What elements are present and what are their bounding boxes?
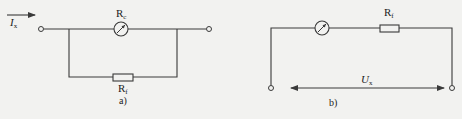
shunt-branch-right — [133, 29, 177, 77]
ammeter-icon — [114, 22, 128, 36]
voltmeter-icon — [315, 21, 329, 35]
left-wire — [271, 28, 315, 86]
panel-a-caption: a) — [119, 95, 127, 107]
shunt-resistor-label: Rf — [118, 82, 128, 96]
circuit-diagram-canvas: Ix Rc Rf a) Rf — [0, 0, 462, 119]
right-wire — [399, 28, 452, 86]
meter-resistance-label: Rc — [116, 7, 126, 21]
series-resistor-icon — [380, 25, 399, 32]
panel-b-caption: b) — [329, 97, 337, 109]
series-resistor-label: Rf — [384, 6, 394, 20]
voltage-label: Ux — [361, 73, 373, 87]
panel-a-ammeter-shunt: Ix Rc Rf a) — [7, 7, 212, 107]
output-terminal-icon — [207, 27, 212, 32]
left-terminal-icon — [269, 86, 274, 91]
current-label: Ix — [9, 16, 18, 30]
shunt-branch-left — [69, 29, 113, 77]
shunt-resistor-icon — [113, 74, 133, 81]
panel-b-voltmeter-multiplier: Rf Ux b) — [269, 6, 455, 109]
input-terminal-icon — [39, 27, 44, 32]
circuit-figure: Ix Rc Rf a) Rf — [0, 0, 462, 119]
right-terminal-icon — [450, 86, 455, 91]
